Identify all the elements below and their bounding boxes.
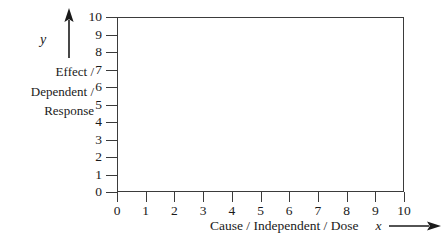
y-tick-label: 6 <box>76 80 102 94</box>
x-axis-caption-text: Cause / Independent / Dose <box>210 219 358 233</box>
y-tick-label: 5 <box>76 98 102 112</box>
x-axis-caption: Cause / Independent / Dose x <box>210 219 441 233</box>
x-axis-right-arrow-icon <box>389 220 441 232</box>
x-tick-mark <box>404 192 405 202</box>
x-tick-label: 1 <box>135 204 157 218</box>
x-tick-label: 10 <box>393 204 415 218</box>
y-tick-mark <box>106 35 117 36</box>
y-tick-label: 0 <box>76 185 102 199</box>
x-tick-mark <box>261 192 262 202</box>
x-tick-mark <box>318 192 319 202</box>
y-tick-label: 4 <box>76 115 102 129</box>
x-tick-mark <box>375 192 376 202</box>
x-tick-label: 3 <box>192 204 214 218</box>
x-tick-mark <box>347 192 348 202</box>
y-axis-variable-label: y <box>40 33 46 47</box>
x-tick-label: 4 <box>221 204 243 218</box>
y-tick-label: 1 <box>76 168 102 182</box>
y-tick-mark <box>106 140 117 141</box>
y-tick-mark <box>106 52 117 53</box>
y-tick-mark <box>106 17 117 18</box>
y-tick-label: 8 <box>76 45 102 59</box>
plot-area <box>117 17 404 192</box>
x-tick-mark <box>117 192 118 202</box>
y-tick-mark <box>106 192 117 193</box>
x-tick-label: 8 <box>336 204 358 218</box>
y-tick-label: 10 <box>76 10 102 24</box>
x-tick-mark <box>289 192 290 202</box>
y-tick-mark <box>106 105 117 106</box>
x-axis-variable-label: x <box>375 219 381 233</box>
y-tick-mark <box>106 175 117 176</box>
x-tick-label: 6 <box>278 204 300 218</box>
y-tick-label: 7 <box>76 63 102 77</box>
y-axis-up-arrow-icon <box>62 8 76 58</box>
y-tick-mark <box>106 70 117 71</box>
x-tick-label: 9 <box>364 204 386 218</box>
y-tick-label: 9 <box>76 28 102 42</box>
x-tick-label: 5 <box>250 204 272 218</box>
x-tick-mark <box>203 192 204 202</box>
x-tick-mark <box>174 192 175 202</box>
y-tick-mark <box>106 157 117 158</box>
x-tick-label: 2 <box>163 204 185 218</box>
x-tick-label: 0 <box>106 204 128 218</box>
y-tick-label: 2 <box>76 150 102 164</box>
x-tick-label: 7 <box>307 204 329 218</box>
y-tick-label: 3 <box>76 133 102 147</box>
x-tick-mark <box>232 192 233 202</box>
y-tick-mark <box>106 122 117 123</box>
y-tick-mark <box>106 87 117 88</box>
x-tick-mark <box>146 192 147 202</box>
